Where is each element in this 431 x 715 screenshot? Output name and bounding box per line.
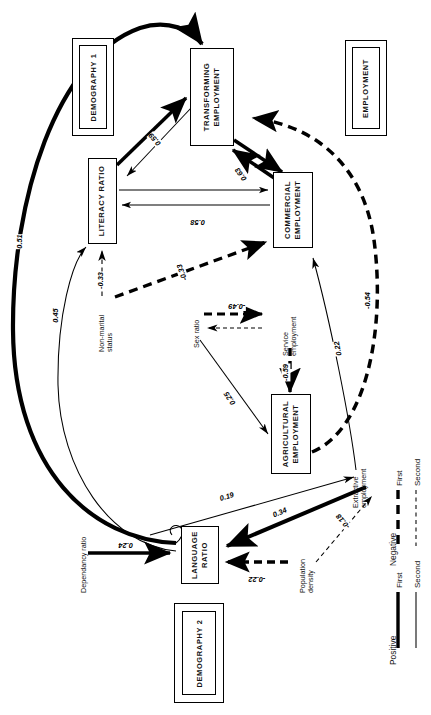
coef-0-58: 0.58 bbox=[190, 218, 205, 227]
node-line-2: EMPLOYMENT bbox=[293, 180, 302, 239]
node-line-1: TRANSFORMING bbox=[202, 63, 211, 132]
node-line-2: EMPLOYMENT bbox=[212, 67, 221, 126]
coef-0-45: 0.45 bbox=[51, 308, 60, 323]
coef-0-51: 0.51 bbox=[15, 234, 24, 249]
edge-extractive-commercial bbox=[313, 258, 356, 470]
label-line-1: Dependancy ratio bbox=[79, 537, 88, 593]
group-demography-2-inner: DEMOGRAPHY 2 bbox=[182, 611, 216, 695]
coef-0-24: 0.24 bbox=[118, 541, 133, 550]
label-non-marital-status: Non-marital status bbox=[98, 315, 115, 352]
node-transforming-employment[interactable]: TRANSFORMING EMPLOYMENT bbox=[190, 48, 234, 146]
legend-positive-title: Positive bbox=[388, 636, 398, 665]
label-line-2: employment bbox=[359, 469, 368, 508]
label-line-1: Sex ratio bbox=[192, 320, 201, 348]
coef-minus-0-54: -0.54 bbox=[363, 292, 372, 310]
node-label-literacy-ratio: LITERACY RATIO bbox=[98, 166, 108, 237]
node-language-ratio[interactable]: LANGUAGE RATIO bbox=[181, 526, 219, 584]
node-line-1: LANGUAGE bbox=[190, 531, 199, 579]
label-line-2: employment bbox=[289, 317, 298, 356]
edge-language-literacy bbox=[58, 247, 176, 551]
node-commercial-employment[interactable]: COMMERCIAL EMPLOYMENT bbox=[273, 172, 313, 248]
label-sex-ratio: Sex ratio bbox=[193, 320, 202, 348]
node-label-commercial-employment: COMMERCIAL EMPLOYMENT bbox=[283, 180, 303, 239]
node-literacy-ratio[interactable]: LITERACY RATIO bbox=[88, 158, 117, 244]
legend-negative-title: Negative bbox=[388, 533, 398, 566]
legend-negative-first-label: First bbox=[395, 470, 404, 486]
label-line-2: density bbox=[306, 570, 315, 593]
node-label-transforming-employment: TRANSFORMING EMPLOYMENT bbox=[202, 63, 222, 132]
node-line-2: EMPLOYMENT bbox=[291, 404, 300, 463]
coef-minus-0-33-literacy: -0.33 bbox=[96, 272, 105, 290]
label-dependancy-ratio: Dependancy ratio bbox=[80, 537, 89, 593]
edge-sexratio-agricultural bbox=[200, 340, 268, 434]
node-line-1: AGRICULTURAL bbox=[281, 401, 290, 467]
label-population-density: Population density bbox=[299, 559, 316, 593]
coef-minus-0-49: -0.49 bbox=[228, 302, 246, 311]
node-line-2: RATIO bbox=[200, 542, 209, 568]
group-label-employment: EMPLOYMENT bbox=[362, 58, 371, 117]
node-agricultural-employment[interactable]: AGRICULTURAL EMPLOYMENT bbox=[271, 394, 311, 474]
group-demography-1-inner: DEMOGRAPHY 1 bbox=[79, 45, 107, 129]
label-service-employment: Service employment bbox=[282, 317, 299, 356]
legend-negative-second-label: Second bbox=[413, 459, 422, 486]
label-extractive-employment: Extractive employment bbox=[352, 469, 369, 508]
coef-minus-0-22: -0.22 bbox=[248, 575, 266, 584]
legend-positive-first-label: First bbox=[395, 572, 404, 588]
edge-nonmarital-commercial bbox=[115, 242, 266, 297]
label-line-2: status bbox=[105, 333, 114, 352]
group-employment-inner: EMPLOYMENT bbox=[352, 47, 380, 129]
node-line-1: COMMERCIAL bbox=[283, 181, 292, 239]
diagram-canvas: DEMOGRAPHY 1 EMPLOYMENT DEMOGRAPHY 2 TRA… bbox=[0, 0, 431, 715]
legend-positive-second-label: Second bbox=[413, 561, 422, 588]
node-label-agricultural-employment: AGRICULTURAL EMPLOYMENT bbox=[281, 401, 301, 467]
coef-minus-0-59-service: -0.59 bbox=[281, 364, 290, 382]
node-label-language-ratio: LANGUAGE RATIO bbox=[190, 531, 210, 579]
group-label-demography-1: DEMOGRAPHY 1 bbox=[89, 53, 98, 121]
group-label-demography-2: DEMOGRAPHY 2 bbox=[195, 619, 204, 687]
